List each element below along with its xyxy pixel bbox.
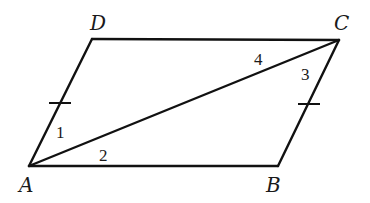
angle-label-3: 3 — [301, 65, 310, 84]
angle-label-2: 2 — [99, 146, 108, 165]
angle-label-4: 4 — [254, 50, 263, 69]
vertex-label-B: B — [265, 173, 281, 197]
angle-label-1: 1 — [56, 123, 65, 142]
parallelogram-diagram: A B C D 1 2 3 4 — [0, 0, 370, 203]
vertex-label-A: A — [17, 173, 33, 197]
diagonal-AC — [29, 40, 339, 166]
side-CD — [92, 39, 339, 40]
vertex-label-C: C — [334, 11, 349, 35]
vertex-label-D: D — [89, 11, 106, 35]
